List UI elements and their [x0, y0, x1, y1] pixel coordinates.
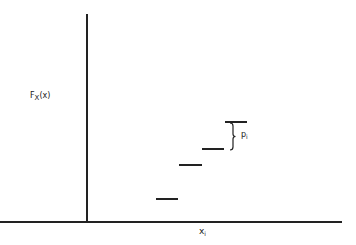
- step-segment-3: [202, 148, 224, 150]
- x-axis-label: xi: [199, 227, 206, 237]
- y-axis: [86, 14, 88, 222]
- brace-icon: [228, 122, 238, 151]
- y-axis-label: FX(x): [30, 92, 50, 102]
- step-segment-2: [179, 164, 202, 166]
- x-axis: [0, 221, 342, 223]
- step-segment-1: [156, 198, 178, 200]
- jump-size-label: pi: [241, 131, 248, 140]
- cdf-step-chart: FX(x) xi pi: [0, 0, 356, 245]
